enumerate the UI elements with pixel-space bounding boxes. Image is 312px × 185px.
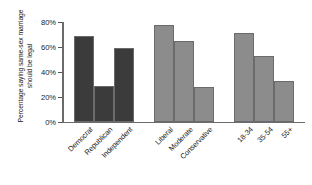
bar-chart: Percentage saying same-sex marriage shou… xyxy=(0,0,312,185)
bar xyxy=(234,33,254,122)
bar xyxy=(114,48,134,122)
x-axis-category-text: 55+ xyxy=(279,125,294,140)
bar xyxy=(254,56,274,122)
bar xyxy=(174,41,194,122)
x-axis-category-text: 18-34 xyxy=(235,125,254,144)
y-axis-tick-label: 60% xyxy=(28,43,56,52)
plot-area xyxy=(62,22,305,122)
bar xyxy=(94,86,114,122)
y-axis-tick-label: 80% xyxy=(28,18,56,27)
y-axis-tick-label: 0% xyxy=(28,118,56,127)
bar xyxy=(274,81,294,122)
y-axis-tick-label: 20% xyxy=(28,93,56,102)
bar xyxy=(74,36,94,122)
bar xyxy=(154,25,174,123)
y-axis-tick-labels: 0%20%40%60%80% xyxy=(28,0,56,185)
bar xyxy=(194,87,214,122)
x-axis-category-text: 35-54 xyxy=(255,125,274,144)
y-axis-tick-label: 40% xyxy=(28,68,56,77)
